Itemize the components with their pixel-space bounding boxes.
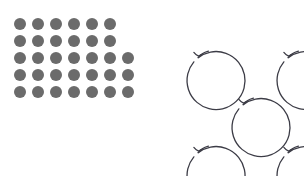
- arrowhead-barb-icon: [194, 147, 201, 150]
- arrowhead-barb-icon: [284, 147, 291, 150]
- circular-arrow-arc: [187, 52, 245, 110]
- circular-arrow-group: [0, 0, 304, 176]
- arrowhead-barb-icon: [194, 52, 201, 55]
- circular-arrow-arc: [277, 52, 304, 110]
- figure-canvas: [0, 0, 304, 176]
- arrowhead-barb-icon: [284, 52, 291, 55]
- arrowhead-barb-icon: [239, 99, 246, 102]
- circular-arrow-arc: [232, 99, 290, 157]
- circular-arrow-arc: [187, 147, 245, 176]
- circular-arrow-arc: [277, 147, 304, 176]
